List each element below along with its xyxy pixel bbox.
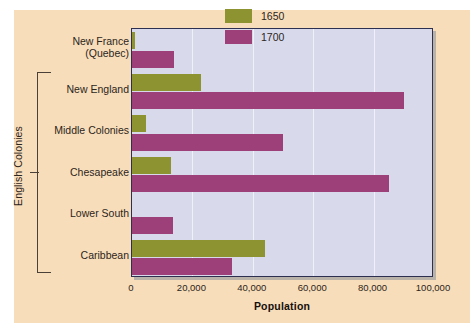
category-label-new-england: New England: [9, 84, 129, 96]
x-tick-label: 100,000: [416, 282, 450, 293]
bar-1700-middle-colonies: [132, 134, 283, 151]
x-axis-tick-labels: 020,00040,00060,00080,000100,000: [131, 282, 433, 296]
bar-1650-caribbean: [132, 240, 265, 257]
legend-swatch-1650: [225, 9, 252, 23]
category-axis-labels: New France (Quebec)New EnglandMiddle Col…: [5, 0, 129, 335]
plot-inner: [132, 29, 432, 276]
x-tick-label: 40,000: [237, 282, 266, 293]
plot-area: [131, 28, 433, 277]
legend-label-1700: 1700: [261, 31, 284, 43]
bar-1650-new-france-quebec: [132, 32, 135, 49]
bar-1700-chesapeake: [132, 175, 389, 192]
category-label-new-france-quebec: New France (Quebec): [9, 36, 129, 59]
legend-item-1650: 1650: [225, 9, 284, 23]
x-tick-label: 60,000: [298, 282, 327, 293]
gridline: [374, 29, 375, 276]
bar-1650-chesapeake: [132, 157, 171, 174]
category-label-middle-colonies: Middle Colonies: [9, 125, 129, 137]
bar-1700-new-france-quebec: [132, 51, 174, 68]
bar-1700-new-england: [132, 92, 404, 109]
x-tick-label: 20,000: [177, 282, 206, 293]
gridline: [313, 29, 314, 276]
bar-1650-new-england: [132, 74, 201, 91]
bar-1700-lower-south: [132, 217, 173, 234]
legend-label-1650: 1650: [261, 10, 284, 22]
category-label-lower-south: Lower South: [9, 208, 129, 220]
chart-legend: 16501700: [225, 9, 284, 44]
bar-1700-caribbean: [132, 258, 232, 275]
legend-swatch-1700: [225, 30, 252, 44]
bar-1650-middle-colonies: [132, 115, 146, 132]
x-tick-label: 0: [128, 282, 133, 293]
category-label-chesapeake: Chesapeake: [9, 167, 129, 179]
chart-figure: English Colonies New France (Quebec)New …: [0, 0, 470, 335]
x-axis-title: Population: [131, 300, 433, 312]
legend-item-1700: 1700: [225, 30, 284, 44]
category-label-caribbean: Caribbean: [9, 250, 129, 262]
x-tick-label: 80,000: [358, 282, 387, 293]
